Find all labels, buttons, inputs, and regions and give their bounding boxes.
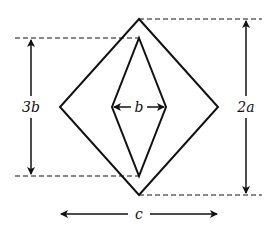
dimension-b: b [114, 99, 164, 115]
dimension-3b: 3b [22, 40, 40, 174]
nested-diamonds-diagram: 3b 2a b c [0, 0, 273, 229]
dimension-c: c [61, 206, 217, 222]
dimension-2a: 2a [236, 21, 254, 193]
label-3b: 3b [22, 99, 40, 115]
label-b: b [135, 99, 144, 115]
label-2a: 2a [236, 99, 254, 115]
label-c: c [135, 206, 143, 222]
